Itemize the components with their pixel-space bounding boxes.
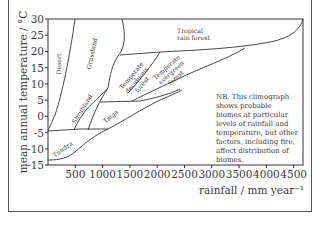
label-taiga: Taiga bbox=[102, 108, 121, 125]
label-shrubland: Shrubland bbox=[70, 93, 93, 125]
x-tick-2000: 2000 bbox=[144, 168, 171, 180]
note-line-6: factors, including fire, bbox=[216, 138, 295, 146]
x-tick-1500: 1500 bbox=[117, 168, 144, 180]
x-tick-500: 500 bbox=[65, 168, 85, 180]
note-line-5: temperature, but other bbox=[216, 129, 299, 137]
climograph-chart: 30 25 20 15 10 5 0 -5 -10 -15 mean annua… bbox=[0, 0, 325, 226]
x-tick-2500: 2500 bbox=[171, 168, 198, 180]
y-tick-minus10: -10 bbox=[27, 143, 44, 155]
biome-labels: Desert Grassland Tropical rain forest Te… bbox=[51, 27, 210, 158]
y-axis: 30 25 20 15 10 5 0 -5 -10 -15 mean annua… bbox=[17, 11, 48, 173]
y-tick-15: 15 bbox=[31, 62, 44, 74]
y-tick-5: 5 bbox=[37, 94, 44, 106]
label-grassland: Grassland bbox=[85, 37, 98, 69]
note-line-4: levels of rainfall and bbox=[216, 120, 289, 128]
note-line-1: NB. This climograph bbox=[216, 93, 290, 101]
note-line-7: affect distribution of bbox=[216, 147, 290, 155]
x-tick-1000: 1000 bbox=[89, 168, 116, 180]
x-tick-3000: 3000 bbox=[198, 168, 225, 180]
y-tick-0: 0 bbox=[37, 110, 44, 122]
y-tick-minus5: -5 bbox=[34, 127, 44, 139]
y-tick-10: 10 bbox=[31, 78, 44, 90]
y-axis-title: mean annual temperature / °C bbox=[17, 11, 29, 173]
y-tick-30: 30 bbox=[31, 13, 44, 25]
x-axis-title: rainfall / mm year⁻¹ bbox=[199, 184, 304, 196]
y-tick-minus15: -15 bbox=[27, 159, 44, 171]
label-desert: Desert bbox=[55, 53, 62, 74]
y-tick-20: 20 bbox=[31, 45, 44, 57]
x-tick-4000: 4000 bbox=[253, 168, 280, 180]
note-line-2: shows probable bbox=[216, 102, 272, 110]
label-tropical-line2: rain forest bbox=[177, 34, 210, 41]
note-line-8: biomes. bbox=[216, 156, 244, 164]
x-tick-3500: 3500 bbox=[226, 168, 253, 180]
y-tick-25: 25 bbox=[31, 29, 44, 41]
note-annotation: NB. This climograph shows probable biome… bbox=[216, 93, 299, 164]
x-tick-4500: 4500 bbox=[280, 168, 307, 180]
note-line-3: biomes at particular bbox=[216, 111, 289, 119]
x-axis: 500 1000 1500 2000 2500 3000 3500 4000 4… bbox=[65, 165, 307, 196]
